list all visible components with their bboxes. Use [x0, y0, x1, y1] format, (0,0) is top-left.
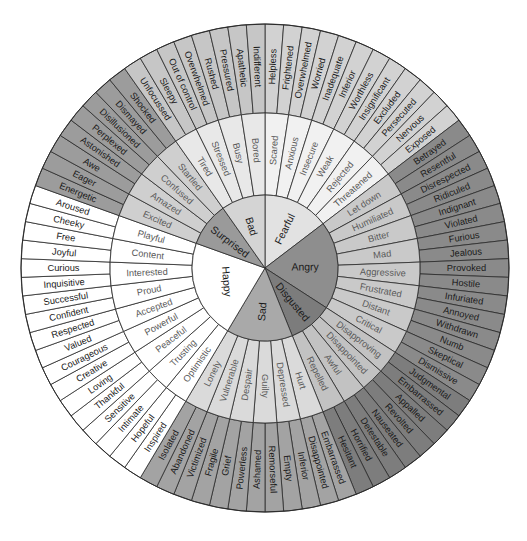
- outer-label-ashamed: Ashamed: [252, 450, 263, 490]
- inner-label-angry: Angry: [291, 260, 319, 272]
- inner-label-sad: Sad: [255, 302, 268, 322]
- outer-label-indifferent: Indifferent: [251, 46, 263, 88]
- middle-label-guilty: Guilty: [260, 374, 270, 398]
- middle-label-bored: Bored: [250, 138, 262, 164]
- middle-label-interested: Interested: [126, 267, 168, 279]
- outer-label-helpless: Helpless: [267, 48, 278, 84]
- outer-label-curious: Curious: [47, 263, 79, 273]
- inner-ring: FearfulAngryDisgustedSadHappySurprisedBa…: [192, 195, 338, 341]
- outer-label-joyful: Joyful: [52, 247, 77, 259]
- emotion-wheel: HelplessFrightenedOverwhelmedWorriedInad…: [0, 0, 527, 541]
- middle-label-mad: Mad: [373, 248, 392, 260]
- outer-label-remorseful: Remorseful: [267, 445, 279, 493]
- outer-label-provoked: Provoked: [447, 263, 486, 273]
- middle-label-aggressive: Aggressive: [360, 267, 406, 279]
